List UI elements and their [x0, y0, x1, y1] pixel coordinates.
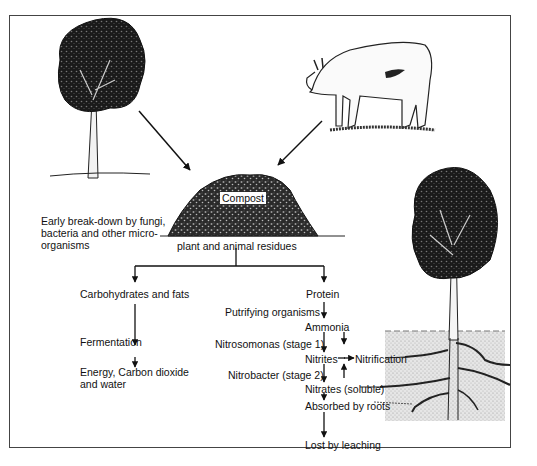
node-absorbed-by-roots: Absorbed by roots	[305, 400, 390, 412]
label-nitrosomonas: Nitrosomonas (stage 1)	[215, 338, 324, 350]
node-protein: Protein	[306, 288, 339, 300]
node-ammonia: Ammonia	[305, 321, 349, 333]
compost-label: Compost	[220, 192, 266, 204]
early-breakdown-note: Early break-down by fungi, bacteria and …	[41, 215, 166, 251]
compost-sublabel: plant and animal residues	[177, 240, 297, 252]
node-nitrates: Nitrates (soluble)	[305, 383, 384, 395]
cow-icon	[307, 42, 435, 130]
arrow-cow-to-compost	[278, 121, 322, 165]
compost-heap-icon	[160, 175, 345, 236]
node-lost-by-leaching: Lost by leaching	[305, 439, 381, 451]
label-nitrobacter: Nitrobacter (stage 2)	[228, 369, 324, 381]
node-carbohydrates-fats: Carbohydrates and fats	[80, 288, 189, 300]
tree-icon	[50, 18, 150, 178]
node-fermentation: Fermentation	[80, 336, 142, 348]
node-energy-co2-water: Energy, Carbon dioxide and water	[80, 366, 205, 390]
node-nitrites: Nitrites	[305, 353, 338, 365]
arrow-tree-to-compost	[139, 111, 190, 170]
label-nitrification: Nitrification	[355, 353, 407, 365]
label-putrifying-organisms: Putrifying organisms	[225, 306, 320, 318]
